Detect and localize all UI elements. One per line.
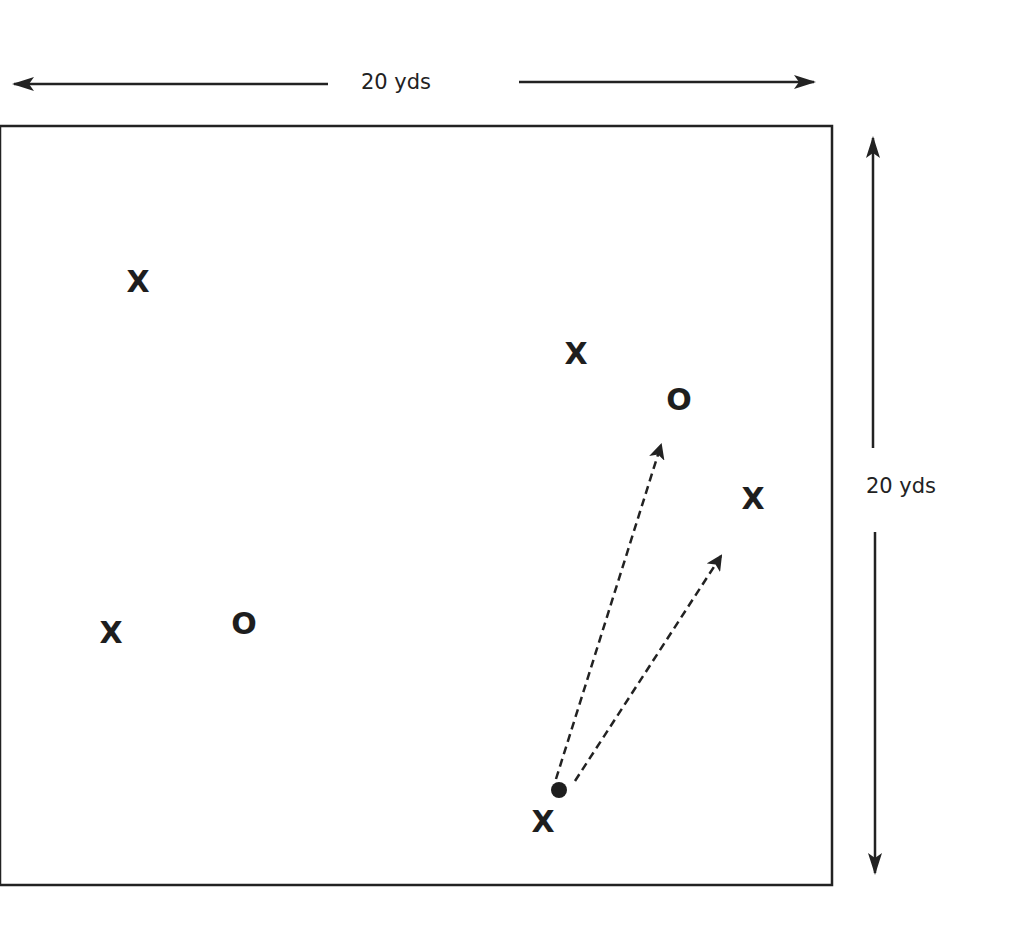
player-o1: O: [666, 382, 692, 417]
field-boundary: [0, 126, 832, 885]
pass-line-to-upper: [556, 445, 661, 779]
width-label: 20 yds: [361, 70, 431, 94]
player-x1: X: [126, 264, 149, 299]
height-label: 20 yds: [866, 474, 936, 498]
player-x4: X: [99, 615, 122, 650]
player-x2: X: [564, 336, 587, 371]
drill-diagram: 20 yds 20 yds X X O X X O X: [0, 0, 1013, 934]
pass-line-to-right: [575, 556, 721, 781]
player-x5-ball-carrier: X: [531, 804, 554, 839]
player-x3: X: [741, 481, 764, 516]
width-dimension: 20 yds: [14, 70, 814, 94]
ball-icon: [551, 782, 567, 798]
player-o2: O: [231, 606, 257, 641]
height-dimension: 20 yds: [866, 138, 936, 873]
